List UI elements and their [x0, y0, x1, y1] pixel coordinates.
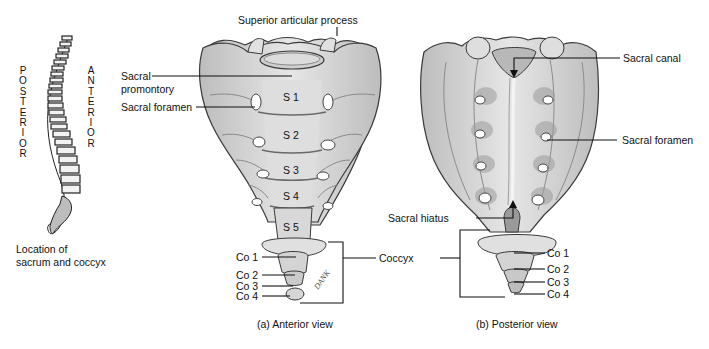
label-sacral-canal: Sacral canal	[623, 52, 681, 64]
spine-caption-line2: sacrum and coccyx	[16, 256, 106, 268]
segment-s5: S 5	[283, 221, 299, 233]
label-sacral-hiatus: Sacral hiatus	[388, 212, 449, 224]
anterior-direction-label: A N T E R I O R	[86, 66, 96, 149]
label-co4-posterior: Co 4	[547, 288, 569, 300]
caption-posterior-view: (b) Posterior view	[476, 318, 558, 330]
label-sacral-promontory-line2: promontory	[121, 83, 174, 95]
label-co3-posterior: Co 3	[547, 276, 569, 288]
label-sacral-promontory-line1: Sacral	[121, 70, 151, 82]
label-co2-posterior: Co 2	[547, 263, 569, 275]
sacrum-illustration: DANK	[0, 0, 709, 349]
segment-s1: S 1	[283, 91, 299, 103]
segment-s4: S 4	[283, 190, 299, 202]
label-sacral-foramen-posterior: Sacral foramen	[622, 134, 693, 146]
segment-s2: S 2	[283, 129, 299, 141]
posterior-direction-label: P O S T E R I O R	[18, 66, 28, 160]
label-co1-anterior: Co 1	[236, 251, 258, 263]
caption-anterior-view: (a) Anterior view	[257, 318, 333, 330]
spine-caption-line1: Location of	[16, 243, 67, 255]
artist-signature: DANK	[312, 268, 333, 292]
label-co4-anterior: Co 4	[236, 290, 258, 302]
posterior-sacrum-drawing	[421, 37, 599, 293]
label-sacral-foramen-anterior: Sacral foramen	[121, 101, 192, 113]
spine-side-view	[48, 36, 80, 234]
label-superior-articular-process: Superior articular process	[238, 14, 358, 26]
segment-s3: S 3	[283, 164, 299, 176]
label-coccyx: Coccyx	[379, 252, 413, 264]
label-co1-posterior: Co 1	[547, 247, 569, 259]
